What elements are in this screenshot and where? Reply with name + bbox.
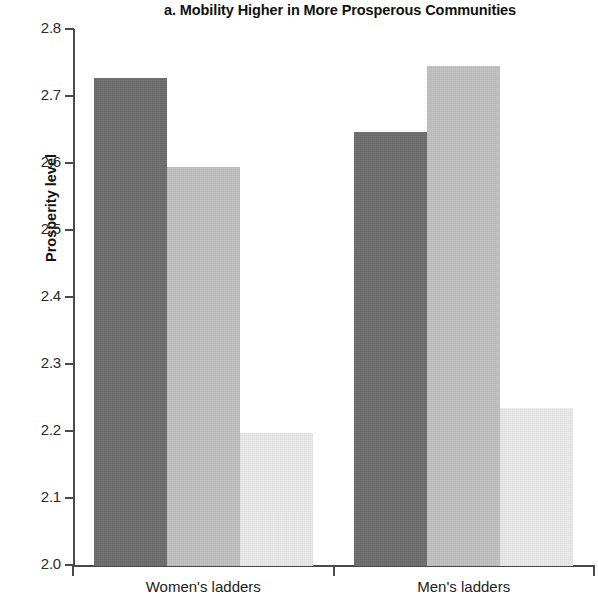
- y-tick-label: 2.0: [17, 555, 61, 572]
- x-tick-label: Men's ladders: [334, 578, 595, 595]
- y-tick-label: 2.1: [17, 488, 61, 505]
- bar: [354, 132, 427, 566]
- x-tick-mark: [593, 565, 595, 576]
- bar: [240, 433, 313, 566]
- x-tick-mark: [333, 565, 335, 576]
- y-tick-label: 2.2: [17, 421, 61, 438]
- bar-chart-figure: a. Mobility Higher in More Prosperous Co…: [0, 0, 598, 608]
- y-axis-label: Prosperity level: [43, 113, 59, 303]
- y-tick-label: 2.5: [17, 220, 61, 237]
- y-tick-label: 2.7: [17, 86, 61, 103]
- bar: [427, 66, 500, 566]
- y-tick-label: 2.4: [17, 287, 61, 304]
- x-tick-mark: [72, 565, 74, 576]
- y-tick-label: 2.8: [17, 19, 61, 36]
- bar: [500, 408, 573, 566]
- y-tick-label: 2.6: [17, 153, 61, 170]
- bar: [94, 78, 167, 566]
- plot-area: [73, 29, 594, 566]
- y-tick-label: 2.3: [17, 354, 61, 371]
- x-tick-label: Women's ladders: [73, 578, 334, 595]
- chart-title: a. Mobility Higher in More Prosperous Co…: [82, 2, 598, 18]
- bar: [167, 167, 240, 566]
